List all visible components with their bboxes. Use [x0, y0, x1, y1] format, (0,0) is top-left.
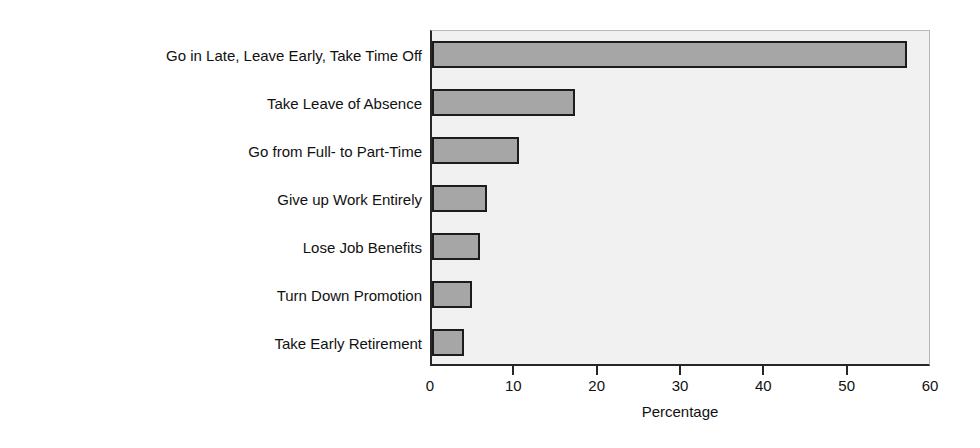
bar-row — [432, 175, 929, 223]
x-axis-title: Percentage — [430, 403, 930, 421]
x-tick-mark — [762, 366, 764, 375]
category-label-3: Give up Work Entirely — [2, 191, 422, 209]
bar-row — [432, 223, 929, 271]
bar — [432, 41, 907, 68]
bar — [432, 329, 464, 356]
x-tick-mark — [846, 366, 848, 375]
plot-area — [430, 30, 930, 366]
bar-row — [432, 79, 929, 127]
bar-row — [432, 31, 929, 79]
category-label-5: Turn Down Promotion — [2, 287, 422, 305]
bar — [432, 233, 480, 260]
x-tick-mark — [596, 366, 598, 375]
category-label-4: Lose Job Benefits — [2, 239, 422, 257]
bar — [432, 185, 487, 212]
bar-row — [432, 271, 929, 319]
x-tick-label: 20 — [567, 377, 627, 395]
x-tick-label: 30 — [650, 377, 710, 395]
x-tick-mark — [512, 366, 514, 375]
bar — [432, 281, 472, 308]
category-label-6: Take Early Retirement — [2, 335, 422, 353]
x-tick-label: 0 — [400, 377, 460, 395]
x-tick-label: 60 — [900, 377, 960, 395]
bar-row — [432, 319, 929, 367]
category-label-1: Take Leave of Absence — [2, 95, 422, 113]
bar-row — [432, 127, 929, 175]
x-tick-label: 40 — [733, 377, 793, 395]
x-tick-mark — [679, 366, 681, 375]
bar — [432, 89, 575, 116]
category-label-2: Go from Full- to Part-Time — [2, 143, 422, 161]
bar — [432, 137, 519, 164]
category-label-0: Go in Late, Leave Early, Take Time Off — [2, 47, 422, 65]
x-tick-label: 10 — [483, 377, 543, 395]
bar-chart: Go in Late, Leave Early, Take Time Off T… — [0, 0, 980, 448]
x-tick-label: 50 — [817, 377, 877, 395]
